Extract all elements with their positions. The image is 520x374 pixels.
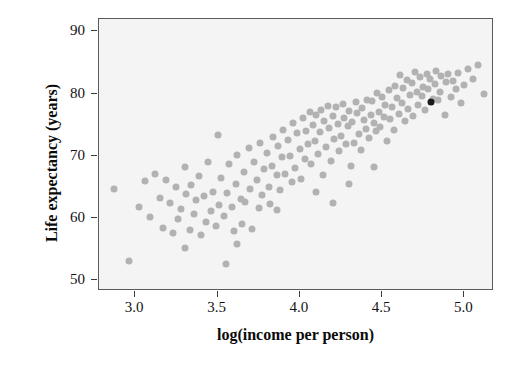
data-point bbox=[313, 188, 320, 195]
data-point bbox=[173, 184, 180, 191]
y-tick-label: 80 bbox=[70, 84, 85, 101]
data-point bbox=[151, 171, 158, 178]
data-point bbox=[286, 152, 293, 159]
data-point bbox=[425, 86, 432, 93]
x-tick-label: 3.0 bbox=[125, 299, 144, 316]
x-tick-label: 3.5 bbox=[207, 299, 226, 316]
data-point bbox=[229, 203, 236, 210]
data-point bbox=[390, 127, 397, 134]
plot-area bbox=[98, 18, 493, 290]
data-point bbox=[160, 224, 167, 231]
data-point bbox=[336, 148, 343, 155]
y-tick-label: 70 bbox=[70, 146, 85, 163]
data-point bbox=[431, 81, 438, 88]
data-point bbox=[418, 93, 425, 100]
data-point bbox=[352, 99, 359, 106]
data-point bbox=[341, 115, 348, 122]
data-point bbox=[410, 112, 417, 119]
y-tick-mark bbox=[91, 155, 97, 156]
data-point bbox=[273, 207, 280, 214]
data-point bbox=[379, 94, 386, 101]
x-tick-label: 4.5 bbox=[372, 299, 391, 316]
data-point bbox=[232, 180, 239, 187]
data-point bbox=[212, 222, 219, 229]
data-point bbox=[183, 191, 190, 198]
data-point bbox=[481, 90, 488, 97]
data-point bbox=[142, 178, 149, 185]
data-point bbox=[245, 145, 252, 152]
data-point bbox=[370, 163, 377, 170]
data-point bbox=[421, 107, 428, 114]
y-tick-mark bbox=[91, 279, 97, 280]
x-tick-mark bbox=[299, 291, 300, 297]
data-point bbox=[204, 159, 211, 166]
data-point bbox=[329, 113, 336, 120]
data-point bbox=[464, 65, 471, 72]
data-point bbox=[337, 132, 344, 139]
data-point bbox=[280, 126, 287, 133]
data-point bbox=[250, 158, 257, 165]
data-point bbox=[387, 115, 394, 122]
data-point bbox=[328, 158, 335, 165]
data-point bbox=[469, 75, 476, 82]
data-point bbox=[181, 244, 188, 251]
data-point bbox=[300, 114, 307, 121]
data-point bbox=[221, 212, 228, 219]
data-point bbox=[196, 173, 203, 180]
data-point bbox=[351, 139, 358, 146]
scatter-plot-figure: 3.03.54.04.55.0 5060708090 log(income pe… bbox=[0, 0, 520, 374]
data-point bbox=[281, 170, 288, 177]
data-point bbox=[267, 201, 274, 208]
data-point bbox=[216, 202, 223, 209]
x-tick-mark bbox=[381, 291, 382, 297]
data-point bbox=[329, 199, 336, 206]
data-point bbox=[436, 89, 443, 96]
data-point bbox=[242, 199, 249, 206]
data-point bbox=[357, 147, 364, 154]
x-tick-mark bbox=[463, 291, 464, 297]
data-point bbox=[326, 124, 333, 131]
data-point bbox=[356, 130, 363, 137]
data-point bbox=[224, 189, 231, 196]
data-point bbox=[202, 219, 209, 226]
data-point bbox=[400, 84, 407, 91]
data-point bbox=[323, 143, 330, 150]
data-point bbox=[346, 180, 353, 187]
data-point bbox=[247, 185, 254, 192]
data-point bbox=[461, 82, 468, 89]
data-point bbox=[402, 118, 409, 125]
data-point bbox=[275, 142, 282, 149]
data-point bbox=[397, 71, 404, 78]
data-point bbox=[291, 165, 298, 172]
data-point bbox=[319, 172, 326, 179]
data-point bbox=[454, 70, 461, 77]
data-point bbox=[230, 227, 237, 234]
data-point bbox=[474, 61, 481, 68]
data-point bbox=[408, 79, 415, 86]
x-axis-label: log(income per person) bbox=[98, 326, 493, 344]
data-point bbox=[405, 106, 412, 113]
data-point bbox=[367, 112, 374, 119]
data-point bbox=[193, 197, 200, 204]
data-point bbox=[170, 229, 177, 236]
data-point bbox=[163, 176, 170, 183]
data-point bbox=[398, 100, 405, 107]
data-point bbox=[178, 206, 185, 213]
data-point bbox=[198, 232, 205, 239]
data-point bbox=[207, 207, 214, 214]
data-point bbox=[277, 187, 284, 194]
data-point bbox=[135, 204, 142, 211]
data-point bbox=[234, 152, 241, 159]
data-point bbox=[110, 186, 117, 193]
data-point bbox=[377, 124, 384, 131]
data-point bbox=[321, 117, 328, 124]
data-point bbox=[360, 116, 367, 123]
data-point bbox=[188, 182, 195, 189]
data-point bbox=[339, 101, 346, 108]
data-point bbox=[175, 215, 182, 222]
data-point bbox=[258, 192, 265, 199]
data-point bbox=[441, 112, 448, 119]
y-tick-label: 90 bbox=[70, 22, 85, 39]
data-point bbox=[392, 83, 399, 90]
data-point bbox=[296, 146, 303, 153]
